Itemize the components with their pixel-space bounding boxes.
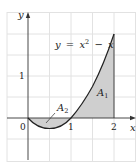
x-tick-2: 2 [111, 122, 117, 132]
equation-label: y = x2 − x [54, 35, 114, 50]
x-tick-1: 1 [68, 122, 74, 132]
x-axis-label: x [130, 122, 136, 133]
area-diagram: y x 0 1 2 1 y = x2 − x A1 A2 [0, 0, 136, 168]
x-tick-0: 0 [20, 122, 26, 132]
y-tick-1: 1 [19, 71, 25, 81]
y-axis-label: y [17, 9, 24, 20]
grid [7, 12, 136, 162]
region-a2-label: A2 [56, 102, 68, 115]
